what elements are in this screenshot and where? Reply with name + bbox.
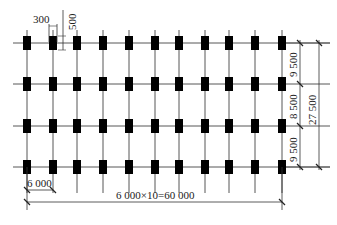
column-depth-label: 500 bbox=[66, 13, 78, 30]
column-block bbox=[278, 119, 286, 133]
column-block bbox=[125, 77, 133, 91]
column-block bbox=[251, 160, 259, 174]
row-spacing-dimensions: 9 500 8 500 9 500 27 500 bbox=[286, 40, 330, 170]
column-block bbox=[175, 119, 183, 133]
column-block bbox=[125, 119, 133, 133]
column-block bbox=[23, 119, 31, 133]
column-block bbox=[278, 77, 286, 91]
column-block bbox=[251, 119, 259, 133]
total-width-label: 27 500 bbox=[306, 94, 318, 125]
column-block bbox=[175, 77, 183, 91]
column-block bbox=[73, 77, 81, 91]
column-block bbox=[99, 160, 107, 174]
column-block bbox=[125, 160, 133, 174]
column-block bbox=[73, 160, 81, 174]
column-width-label: 300 bbox=[33, 13, 50, 25]
column-block bbox=[49, 160, 57, 174]
column-block bbox=[99, 36, 107, 50]
column-block bbox=[201, 36, 209, 50]
column-block bbox=[23, 77, 31, 91]
column-block bbox=[151, 77, 159, 91]
column-block bbox=[225, 77, 233, 91]
column-block bbox=[201, 160, 209, 174]
column-blocks bbox=[23, 36, 286, 174]
column-block bbox=[151, 36, 159, 50]
column-grid-diagram: 300 500 9 500 8 500 9 500 27 500 bbox=[0, 0, 337, 225]
column-block bbox=[125, 36, 133, 50]
column-block bbox=[99, 77, 107, 91]
column-block bbox=[201, 119, 209, 133]
column-block bbox=[251, 36, 259, 50]
column-block bbox=[225, 160, 233, 174]
horizontal-grid-lines bbox=[13, 43, 330, 167]
column-block bbox=[175, 160, 183, 174]
column-block bbox=[49, 77, 57, 91]
column-block bbox=[278, 36, 286, 50]
column-block bbox=[73, 36, 81, 50]
row-spacing-2: 8 500 bbox=[287, 94, 299, 119]
column-block bbox=[99, 119, 107, 133]
row-spacing-1: 9 500 bbox=[287, 52, 299, 77]
column-block bbox=[225, 36, 233, 50]
column-block bbox=[49, 36, 57, 50]
column-block bbox=[251, 77, 259, 91]
column-block bbox=[23, 36, 31, 50]
total-length-label: 6 000×10=60 000 bbox=[116, 189, 195, 201]
column-block bbox=[73, 119, 81, 133]
column-block bbox=[49, 119, 57, 133]
column-block bbox=[151, 119, 159, 133]
column-block bbox=[225, 119, 233, 133]
column-block bbox=[151, 160, 159, 174]
row-spacing-3: 9 500 bbox=[287, 137, 299, 162]
column-block bbox=[175, 36, 183, 50]
column-block bbox=[201, 77, 209, 91]
bay-spacing-label: 6 000 bbox=[27, 177, 52, 189]
